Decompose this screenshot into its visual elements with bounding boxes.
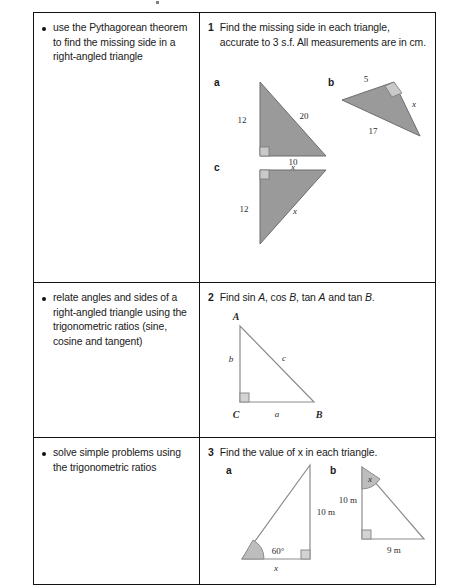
objective-text-3: solve simple problems using the trigonom… [53, 446, 192, 475]
objective-content-1: use the Pythagorean theorem to find the … [34, 13, 199, 71]
label-1c-top-side: 10 [289, 157, 299, 167]
figures-question-1: a 12 20 x b [208, 50, 427, 265]
question-cell-1: 1 Find the missing side in each triangle… [200, 13, 436, 283]
table-row: relate angles and sides of a right-angle… [34, 283, 436, 438]
bullet-item-2: relate angles and sides of a right-angle… [42, 291, 192, 349]
label-1b-long-side: 17 [369, 126, 379, 136]
table-row: solve simple problems using the trigonom… [34, 438, 436, 585]
figures-question-3: a 60° 10 m x [208, 461, 427, 571]
question-content-2: 2 Find sin A, cos B, tan A and tan B. A … [200, 283, 435, 425]
question-text-2: Find sin A, cos B, tan A and tan B. [220, 291, 375, 306]
part-label-1c: c [214, 162, 220, 173]
question-cell-2: 2 Find sin A, cos B, tan A and tan B. A … [200, 283, 436, 438]
part-label-1a: a [214, 77, 220, 88]
q2-seg-6: and tan [325, 292, 365, 303]
question-cell-3: 3 Find the value of x in each triangle. … [200, 438, 436, 585]
objective-cell-2: relate angles and sides of a right-angle… [34, 283, 200, 438]
right-angle-marker-1a [260, 147, 269, 156]
right-angle-marker-2 [240, 393, 249, 402]
syllabus-table: use the Pythagorean theorem to find the … [33, 12, 436, 585]
right-angle-marker-3b [362, 530, 371, 539]
bullet-dot-icon [42, 297, 46, 301]
q2-var-A1: A [258, 292, 265, 303]
label-1a-left-side: 12 [238, 115, 247, 125]
objective-cell-1: use the Pythagorean theorem to find the … [34, 13, 200, 283]
angle-sector-3a [242, 540, 264, 559]
bullet-dot-icon [42, 27, 46, 31]
label-2-base: a [275, 409, 280, 419]
figure-1c-svg: 10 12 x [238, 156, 368, 261]
label-3a-angle: 60° [272, 546, 285, 556]
figure-2: A C B b c a [222, 310, 342, 422]
question-number-1: 1 [208, 21, 214, 36]
bullet-item-1: use the Pythagorean theorem to find the … [42, 21, 192, 65]
objective-text-2: relate angles and sides of a right-angle… [53, 291, 192, 349]
vertex-label-A: A [232, 311, 240, 322]
label-3a-base: x [273, 563, 278, 573]
objective-text-1: use the Pythagorean theorem to find the … [53, 21, 192, 65]
label-3a-right-side: 10 m [317, 507, 335, 517]
label-3b-angle: x [367, 474, 372, 484]
figures-question-2: A C B b c a [208, 306, 427, 421]
triangle-1a-shape [260, 82, 326, 156]
label-1b-other-side: x [411, 99, 416, 109]
question-number-3: 3 [208, 446, 214, 461]
question-content-3: 3 Find the value of x in each triangle. … [200, 438, 435, 575]
label-2-left-side: b [229, 354, 234, 364]
figure-3a: 60° 10 m x [232, 461, 342, 573]
label-1c-left-side: 12 [240, 204, 249, 214]
scan-artifact-speck [156, 1, 159, 4]
vertex-label-C: C [233, 409, 240, 420]
label-1b-upper-side: 5 [364, 74, 369, 84]
vertex-label-B: B [315, 409, 323, 420]
table-row: use the Pythagorean theorem to find the … [34, 13, 436, 283]
figure-1c: 10 12 x [238, 156, 368, 261]
label-1c-hypotenuse: x [292, 206, 297, 216]
label-3b-base: 9 m [387, 545, 401, 555]
right-angle-marker-3a [301, 550, 310, 559]
label-1a-hypotenuse: 20 [300, 111, 310, 121]
label-3b-left-side: 10 m [339, 495, 357, 505]
label-2-hypotenuse: c [282, 353, 286, 363]
q2-var-B2: B [365, 292, 372, 303]
objective-content-2: relate angles and sides of a right-angle… [34, 283, 199, 355]
question-heading-2: 2 Find sin A, cos B, tan A and tan B. [208, 291, 427, 306]
bullet-dot-icon [42, 452, 46, 456]
triangle-2-shape [240, 326, 314, 402]
figure-3b-svg: x 10 m 9 m [338, 455, 448, 567]
question-text-1: Find the missing side in each triangle, … [220, 21, 427, 50]
part-label-3b: b [330, 465, 336, 476]
part-label-1b: b [328, 77, 334, 88]
bullet-item-3: solve simple problems using the trigonom… [42, 446, 192, 475]
q2-seg-2: , cos [265, 292, 289, 303]
right-angle-marker-1c [260, 170, 269, 179]
question-content-1: 1 Find the missing side in each triangle… [200, 13, 435, 269]
figure-2-svg: A C B b c a [222, 310, 342, 422]
figure-3a-svg: 60° 10 m x [232, 461, 342, 573]
question-heading-1: 1 Find the missing side in each triangle… [208, 21, 427, 50]
figure-3b: x 10 m 9 m [338, 455, 448, 567]
q2-seg-0: Find sin [220, 292, 258, 303]
question-number-2: 2 [208, 291, 214, 306]
figure-1b: 5 x 17 [336, 72, 446, 167]
figure-1b-svg: 5 x 17 [336, 72, 446, 167]
triangle-1b-shape [342, 82, 420, 136]
q2-seg-8: . [372, 292, 375, 303]
part-label-3a: a [226, 465, 232, 476]
q2-seg-4: , tan [296, 292, 319, 303]
objective-content-3: solve simple problems using the trigonom… [34, 438, 199, 481]
objective-cell-3: solve simple problems using the trigonom… [34, 438, 200, 585]
